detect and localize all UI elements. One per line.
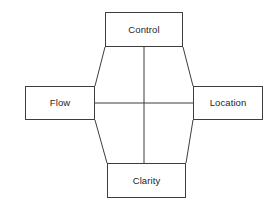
node-flow[interactable]: Flow <box>25 86 95 120</box>
node-control-label: Control <box>128 25 159 35</box>
edge-location-clarity <box>186 120 193 163</box>
node-clarity-label: Clarity <box>133 176 161 186</box>
node-location-label: Location <box>210 98 247 108</box>
diagram-canvas: Control Flow Location Clarity <box>0 0 276 209</box>
edge-flow-clarity <box>95 120 107 163</box>
node-location[interactable]: Location <box>193 86 263 120</box>
edge-control-flow <box>95 47 105 86</box>
node-flow-label: Flow <box>50 98 70 108</box>
edge-control-location <box>183 47 193 86</box>
node-control[interactable]: Control <box>105 12 183 47</box>
node-clarity[interactable]: Clarity <box>107 163 186 198</box>
